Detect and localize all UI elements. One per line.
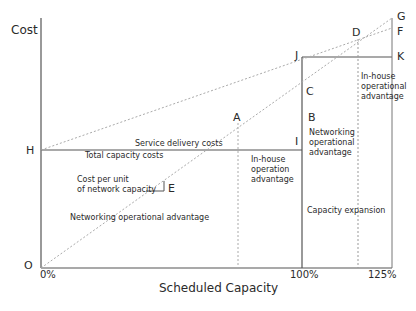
point-d: D [352, 27, 360, 38]
networking-advantage-right-label: Networking operational advantage [309, 128, 355, 158]
inhouse-operational-label: In-house operational advantage [361, 72, 407, 102]
x-tick-100: 100% [290, 270, 319, 280]
y-axis-label: Cost [11, 24, 38, 36]
point-b: B [308, 112, 316, 123]
point-h: H [26, 145, 34, 156]
point-a: A [233, 112, 241, 123]
cost-per-unit-label: Cost per unit of network capacity [77, 175, 156, 195]
x-tick-125: 125% [368, 270, 397, 280]
point-g: G [397, 11, 406, 22]
point-c: C [306, 86, 314, 97]
x-axis-label: Scheduled Capacity [159, 282, 278, 294]
point-f: F [397, 26, 403, 37]
point-o: O [24, 260, 33, 271]
total-capacity-label: Total capacity costs [85, 151, 163, 161]
point-j: J [295, 50, 298, 61]
point-e: E [168, 183, 175, 194]
point-k: K [397, 51, 404, 62]
x-tick-0: 0% [40, 270, 56, 280]
service-delivery-label: Service delivery costs [135, 139, 223, 149]
inhouse-operation-label: In-house operation advantage [251, 155, 294, 185]
capacity-expansion-label: Capacity expansion [307, 206, 385, 216]
networking-advantage-left-label: Networking operational advantage [70, 213, 209, 223]
point-i: I [295, 136, 298, 147]
